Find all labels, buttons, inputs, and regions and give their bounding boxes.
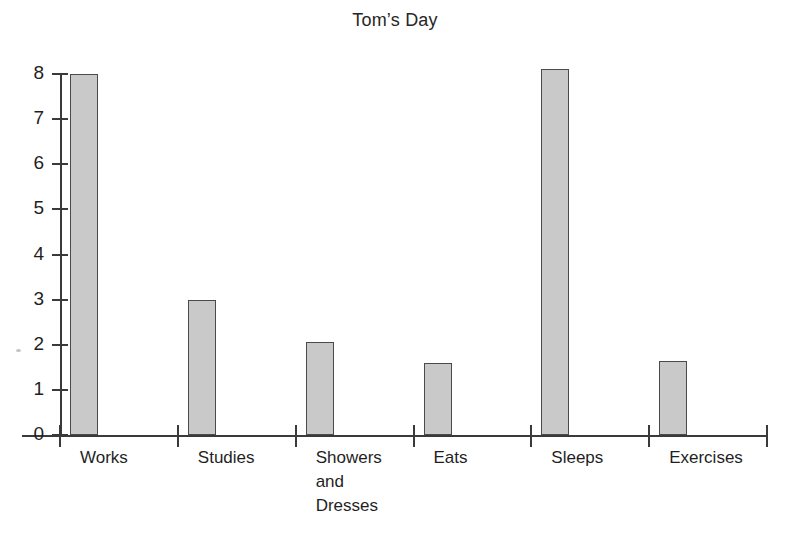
y-axis-tick-label: 7 [20, 108, 44, 127]
y-axis-tick [52, 389, 68, 391]
x-axis-tick [177, 425, 179, 447]
bar [541, 69, 569, 435]
y-axis-tick [52, 118, 68, 120]
x-axis-line [22, 435, 768, 437]
x-axis-category-label: Works [80, 446, 128, 470]
x-axis-category-label: Exercises [669, 446, 743, 470]
plot-area: 012345678 WorksStudiesShowers and Dresse… [0, 0, 790, 543]
y-axis-tick [52, 254, 68, 256]
y-axis-tick [52, 344, 68, 346]
x-axis-tick [295, 425, 297, 447]
x-axis-tick [59, 425, 61, 447]
y-axis-tick [52, 163, 68, 165]
x-axis-category-label: Sleeps [551, 446, 603, 470]
x-axis-category-label: Studies [198, 446, 255, 470]
y-axis-tick [52, 73, 68, 75]
x-axis-tick [413, 425, 415, 447]
y-axis-tick-label: 4 [20, 244, 44, 263]
bar [306, 342, 334, 435]
x-axis-category-label: Eats [434, 446, 468, 470]
x-axis-tick [766, 425, 768, 447]
y-axis-tick-label: 0 [20, 424, 44, 443]
bar [424, 363, 452, 435]
bar-chart: Tom’s Day 012345678 WorksStudiesShowers … [0, 0, 790, 543]
bar [188, 300, 216, 435]
y-axis-tick-label: 6 [20, 153, 44, 172]
x-axis-tick [648, 425, 650, 447]
y-axis-tick-label: 1 [20, 379, 44, 398]
bar [659, 361, 687, 435]
bar [70, 74, 98, 435]
x-axis-category-label: Showers and Dresses [316, 446, 382, 518]
y-axis-tick-label: 5 [20, 198, 44, 217]
y-axis-tick-label: 2 [20, 334, 44, 353]
y-axis-tick [52, 299, 68, 301]
y-axis-tick-label: 3 [20, 289, 44, 308]
y-axis-tick [52, 208, 68, 210]
x-axis-tick [530, 425, 532, 447]
y-axis-tick-label: 8 [20, 63, 44, 82]
